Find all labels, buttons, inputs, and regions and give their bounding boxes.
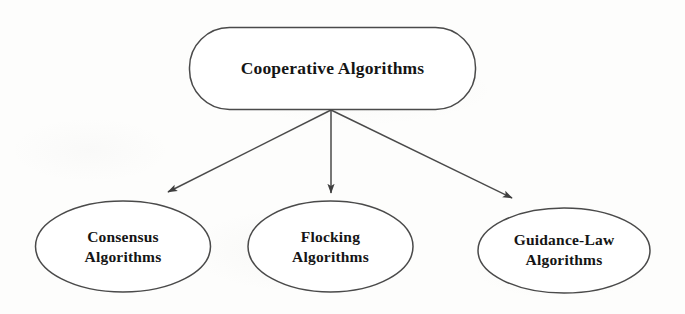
node-guidance-law-algorithms bbox=[478, 208, 650, 293]
node-consensus-algorithms bbox=[36, 201, 211, 292]
diagram-vector-layer bbox=[0, 0, 685, 314]
connector-root-to-consensus bbox=[168, 110, 331, 192]
node-cooperative-algorithms bbox=[190, 28, 476, 110]
diagram-canvas: Cooperative Algorithms Consensus Algorit… bbox=[0, 0, 685, 314]
node-flocking-algorithms bbox=[248, 201, 413, 292]
connector-root-to-guidance-law bbox=[331, 110, 512, 198]
